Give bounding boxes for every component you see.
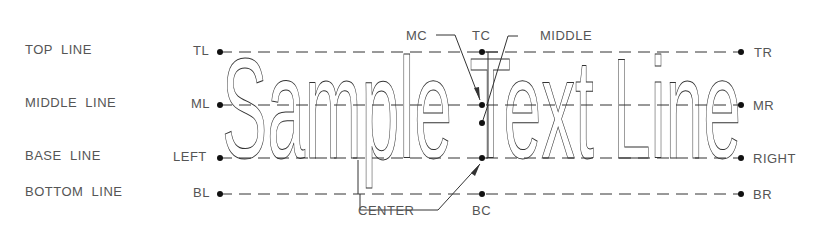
label-center: CENTER: [358, 204, 414, 217]
label-tc: TC: [472, 29, 490, 42]
label-middle: MIDDLE: [540, 29, 592, 42]
row-label-base: BASE LINE: [25, 149, 101, 162]
label-right: RIGHT: [753, 152, 796, 165]
row-label-top: TOP LINE: [25, 43, 92, 56]
label-mr: MR: [753, 99, 774, 112]
label-br: BR: [753, 188, 772, 201]
label-bl: BL: [193, 186, 210, 199]
sample-text: Sample Text Line: [222, 29, 741, 188]
label-ml: ML: [191, 97, 210, 110]
row-label-bottom: BOTTOM LINE: [25, 185, 123, 198]
label-tr: TR: [754, 46, 772, 59]
br-point: [738, 191, 744, 197]
label-tl: TL: [193, 44, 209, 57]
label-bc: BC: [472, 204, 491, 217]
row-label-middle: MIDDLE LINE: [25, 96, 116, 109]
label-mc: MC: [406, 29, 427, 42]
bc-point: [479, 191, 485, 197]
label-left: LEFT: [173, 150, 207, 163]
bl-point: [217, 191, 223, 197]
